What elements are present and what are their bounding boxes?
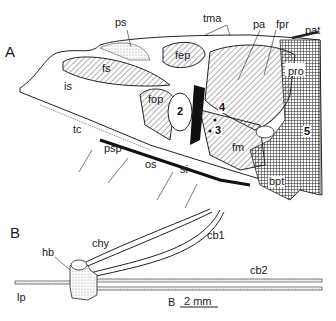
label-bpt: bpt — [268, 176, 285, 187]
label-ps: ps — [115, 17, 127, 28]
label-tc: tc — [73, 124, 82, 135]
label-fs: fs — [102, 63, 111, 74]
panel-b-hyoid — [15, 209, 322, 307]
label-hb: hb — [42, 247, 54, 258]
panel-a-letter: A — [5, 44, 15, 59]
label-fop: fop — [148, 94, 163, 105]
label-pro: pro — [288, 66, 304, 77]
label-2: 2 — [176, 106, 184, 117]
label-pat: pat — [305, 25, 320, 36]
label-tma: tma — [203, 13, 221, 24]
panel-b-letter: B — [10, 225, 20, 240]
label-cb1: cb1 — [207, 230, 225, 241]
label-3: 3 — [214, 125, 222, 136]
label-4: 4 — [218, 102, 226, 113]
label-pa: pa — [253, 19, 265, 30]
label-5: 5 — [303, 126, 311, 137]
label-is: is — [64, 81, 72, 92]
label-fpr: fpr — [276, 19, 289, 30]
label-lp: lp — [17, 292, 26, 303]
label-os: os — [145, 159, 157, 170]
label-cb2: cb2 — [250, 265, 268, 276]
anatomical-figure — [0, 0, 336, 321]
label-fep: fep — [175, 50, 190, 61]
scale-bar-letter: B — [168, 296, 175, 308]
label-psp: psp — [104, 143, 122, 154]
label-fm: fm — [232, 142, 244, 153]
scale-bar-value: 2 mm — [184, 295, 212, 307]
label-si: si — [180, 164, 188, 175]
label-chy: chy — [92, 238, 109, 249]
